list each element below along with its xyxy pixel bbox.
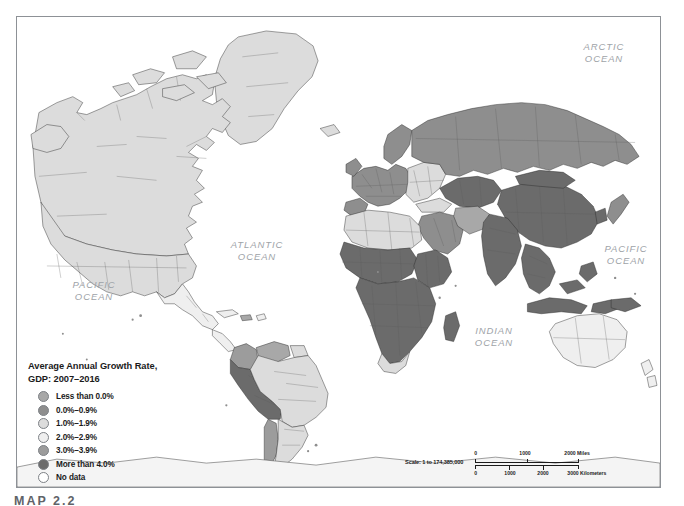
- legend-swatch-icon: [38, 472, 49, 483]
- map-legend: Average Annual Growth Rate, GDP: 2007–20…: [28, 360, 213, 485]
- legend-item-label: 2.0%–2.9%: [56, 433, 97, 442]
- legend-item-label: 0.0%–0.9%: [56, 406, 97, 415]
- legend-item-more-than-four[interactable]: More than 4.0%: [38, 458, 213, 471]
- map-scale-bar: Scale: 1 to 174,385,000 0 1000 2000 Mile…: [405, 450, 593, 479]
- legend-swatch-icon: [38, 418, 49, 429]
- legend-item-label: No data: [56, 473, 85, 482]
- legend-item-label: 1.0%–1.9%: [56, 419, 97, 428]
- legend-item-2-0-2-9[interactable]: 2.0%–2.9%: [38, 431, 213, 444]
- scale-group-kilometers: 0 1000 2000 3000 Kilometers: [475, 465, 593, 479]
- legend-swatch-icon: [38, 391, 49, 402]
- scale-tick-miles-2000: 2000 Miles: [564, 450, 590, 456]
- legend-swatch-icon: [38, 405, 49, 416]
- legend-title: Average Annual Growth Rate, GDP: 2007–20…: [28, 360, 213, 385]
- legend-item-less-than-zero[interactable]: Less than 0.0%: [38, 390, 213, 403]
- legend-item-1-0-1-9[interactable]: 1.0%–1.9%: [38, 417, 213, 430]
- figure-container: ARCTIC OCEAN ATLANTIC OCEAN PACIFIC OCEA…: [0, 0, 684, 506]
- scale-tick-km-0: 0: [474, 470, 477, 476]
- legend-item-no-data[interactable]: No data: [38, 471, 213, 484]
- legend-swatch-icon: [38, 459, 49, 470]
- legend-item-label: Less than 0.0%: [56, 392, 114, 401]
- scale-bar-miles: [475, 459, 579, 463]
- scale-tick-km-1000: 1000: [504, 470, 515, 476]
- scale-group-miles: 0 1000 2000 Miles: [475, 450, 593, 463]
- legend-item-3-0-3-9[interactable]: 3.0%–3.9%: [38, 444, 213, 457]
- figure-caption: MAP 2.2: [14, 494, 76, 506]
- legend-item-label: More than 4.0%: [56, 460, 115, 469]
- scale-tick-km-3000: 3000 Kilometers: [567, 470, 606, 476]
- scale-tick-km-2000: 2000: [537, 470, 548, 476]
- scale-tick-miles-0: 0: [474, 450, 477, 456]
- legend-item-0-0-9[interactable]: 0.0%–0.9%: [38, 404, 213, 417]
- scale-ratio-label: Scale: 1 to 174,385,000: [405, 459, 463, 465]
- legend-swatch-icon: [38, 432, 49, 443]
- legend-swatch-icon: [38, 445, 49, 456]
- scale-bar-kilometers: [475, 465, 579, 469]
- scale-tick-miles-1000: 1000: [519, 450, 530, 456]
- legend-item-label: 3.0%–3.9%: [56, 446, 97, 455]
